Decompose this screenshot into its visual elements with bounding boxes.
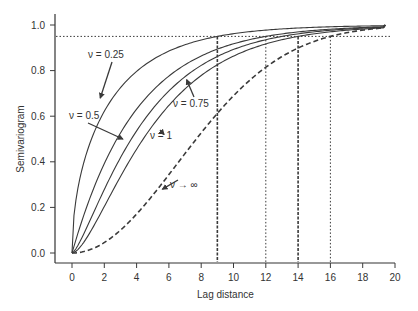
annotation-arrow [100, 62, 112, 98]
reference-lines [56, 36, 392, 262]
x-tick-label: 0 [69, 272, 75, 283]
x-tick-label: 20 [389, 272, 401, 283]
x-tick-label: 12 [260, 272, 272, 283]
x-tick-label: 2 [102, 272, 108, 283]
x-tick-label: 6 [166, 272, 172, 283]
axes: 0.00.20.40.60.81.0 02468101214161820 Lag… [15, 14, 401, 300]
y-tick-label: 0.8 [31, 65, 45, 76]
x-tick-label: 4 [134, 272, 140, 283]
x-tick-label: 14 [293, 272, 305, 283]
annotations: ν = 0.25ν = 0.5ν = 0.75ν = 1ν → ∞ [69, 49, 209, 190]
curve-annotation: ν = 0.5 [69, 110, 100, 121]
x-axis-label: Lag distance [197, 289, 254, 300]
y-axis-label: Semivariogram [15, 105, 26, 172]
y-tick-label: 1.0 [31, 20, 45, 31]
x-tick-label: 8 [198, 272, 204, 283]
curve-annotation: ν = 0.75 [173, 98, 209, 109]
y-tick-label: 0.0 [31, 248, 45, 259]
x-tick-label: 10 [228, 272, 240, 283]
curve-annotation: ν → ∞ [170, 179, 198, 190]
x-tick-label: 16 [325, 272, 337, 283]
x-ticks: 02468101214161820 [69, 263, 401, 283]
annotation-arrow [88, 123, 123, 139]
curve-annotation: ν = 0.25 [88, 49, 124, 60]
x-tick-label: 18 [357, 272, 369, 283]
y-ticks: 0.00.20.40.60.81.0 [31, 20, 55, 259]
y-tick-label: 0.6 [31, 111, 45, 122]
semivariogram-chart: ν = 0.25ν = 0.5ν = 0.75ν = 1ν → ∞ 0.00.2… [0, 0, 418, 311]
y-tick-label: 0.4 [31, 156, 45, 167]
y-tick-label: 0.2 [31, 202, 45, 213]
